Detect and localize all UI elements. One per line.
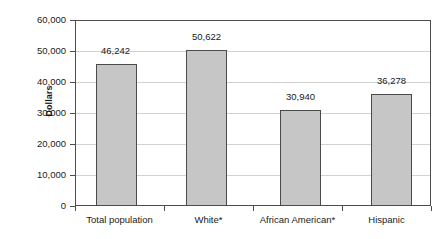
bar-value-total-population: 46,242 — [75, 45, 156, 56]
y-tick-label-50000: 50,000 — [0, 46, 66, 56]
x-category-label-hispanic: Hispanic — [342, 214, 431, 226]
y-tick-label-10000: 10,000 — [0, 170, 66, 180]
bar-white[interactable] — [186, 50, 227, 206]
bar-total-population[interactable] — [96, 64, 137, 206]
x-tick-mark-2 — [253, 206, 254, 211]
x-tick-mark-0 — [75, 206, 76, 211]
y-tick-label-0: 0 — [0, 201, 66, 211]
bar-hispanic[interactable] — [371, 94, 412, 206]
bar-african-american[interactable] — [280, 110, 321, 206]
x-tick-mark-1 — [164, 206, 165, 211]
bar-value-african-american: 30,940 — [260, 91, 341, 102]
bar-value-white: 50,622 — [166, 31, 247, 42]
x-category-label-african-american: African American* — [249, 214, 346, 226]
y-tick-label-20000: 20,000 — [0, 139, 66, 149]
bar-value-hispanic: 36,278 — [351, 75, 432, 86]
bar-chart: Dollars 60,000 50,000 40,000 30,000 20,0… — [0, 0, 448, 239]
x-category-label-white: White* — [164, 214, 253, 226]
x-tick-mark-3 — [342, 206, 343, 211]
y-tick-label-40000: 40,000 — [0, 77, 66, 87]
x-tick-mark-4 — [431, 206, 432, 211]
x-category-label-total-population: Total population — [75, 214, 164, 226]
y-tick-label-30000: 30,000 — [0, 108, 66, 118]
y-axis-tick-labels: 60,000 50,000 40,000 30,000 20,000 10,00… — [0, 0, 66, 239]
y-tick-label-60000: 60,000 — [0, 15, 66, 25]
